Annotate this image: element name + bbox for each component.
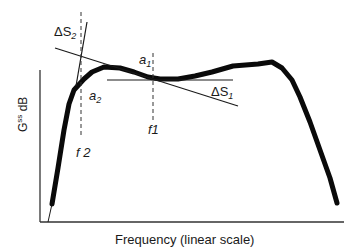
label-f1: f1: [148, 122, 159, 137]
label-delta-s1: ΔS1: [211, 84, 233, 101]
label-delta-s2: ΔS2: [54, 24, 76, 41]
label-f2: f 2: [76, 145, 91, 160]
x-axis-label: Frequency (linear scale): [115, 232, 254, 247]
label-a1: a1: [139, 52, 151, 69]
label-a2: a2: [89, 88, 101, 105]
gain-frequency-diagram: ΔS2 a1 a2 ΔS1 f1 f 2 Gss dB Frequency (l…: [0, 0, 356, 252]
gain-curve: [52, 62, 337, 204]
curve-tail: [48, 204, 52, 222]
y-axis-label: Gss dB: [15, 97, 30, 132]
